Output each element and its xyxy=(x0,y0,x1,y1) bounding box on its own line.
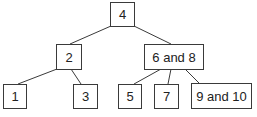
node-label: 4 xyxy=(119,7,126,22)
edge-6and8-5 xyxy=(134,69,161,84)
node-label: 6 and 8 xyxy=(152,50,195,65)
tree-node-left: 2 xyxy=(56,44,82,70)
edge-2-1 xyxy=(18,69,57,84)
edge-4-6and8 xyxy=(134,26,171,44)
edge-6and8-7 xyxy=(168,69,171,84)
node-label: 3 xyxy=(82,89,89,104)
tree-node-leaf-7: 7 xyxy=(154,84,179,109)
node-label: 7 xyxy=(163,89,170,104)
tree-node-leaf-1: 1 xyxy=(3,84,27,109)
node-label: 2 xyxy=(65,50,72,65)
node-label: 9 and 10 xyxy=(196,89,247,104)
tree-node-right: 6 and 8 xyxy=(144,44,204,70)
tree-node-leaf-3: 3 xyxy=(73,84,98,109)
node-label: 5 xyxy=(126,89,133,104)
edge-4-2 xyxy=(70,26,111,44)
edge-2-3 xyxy=(71,69,81,84)
tree-node-leaf-9-and-10: 9 and 10 xyxy=(191,83,252,109)
node-label: 1 xyxy=(11,89,18,104)
tree-node-leaf-5: 5 xyxy=(118,84,142,109)
tree-node-root: 4 xyxy=(110,2,135,27)
edge-6and8-9and10 xyxy=(185,69,199,83)
